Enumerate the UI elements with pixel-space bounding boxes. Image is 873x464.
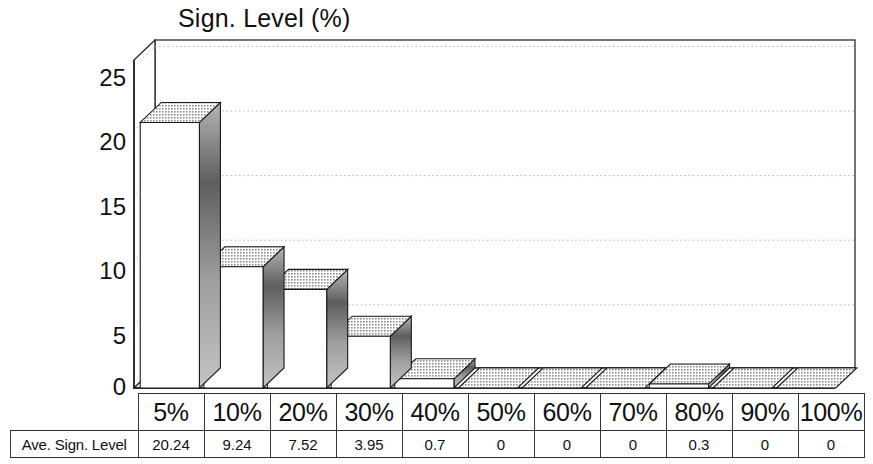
table-value-cell-10: 0	[798, 431, 864, 458]
table-row-label: Ave. Sign. Level	[11, 431, 139, 458]
y-tick-label-10: 10	[78, 257, 126, 285]
table-header-cell-9: 90%	[732, 394, 798, 431]
table-value-cell-2: 7.52	[270, 431, 336, 458]
table-header-cell-7: 70%	[600, 394, 666, 431]
table-header-cell-4: 40%	[402, 394, 468, 431]
table-value-cell-7: 0	[600, 431, 666, 458]
chart-container: Sign. Level (%) 25 20 15 10 5 0 5% 10% 2…	[0, 0, 873, 464]
table-corner-cell	[11, 394, 139, 431]
table-header-cell-10: 100%	[798, 394, 864, 431]
table-header-row: 5% 10% 20% 30% 40% 50% 60% 70% 80% 90% 1…	[11, 394, 865, 431]
table-value-row: Ave. Sign. Level 20.24 9.24 7.52 3.95 0.…	[11, 431, 865, 458]
chart-title: Sign. Level (%)	[178, 4, 351, 33]
table-value-cell-8: 0.3	[666, 431, 732, 458]
table-header-cell-8: 80%	[666, 394, 732, 431]
table-value-cell-3: 3.95	[336, 431, 402, 458]
table-header-cell-0: 5%	[138, 394, 204, 431]
table-value-cell-9: 0	[732, 431, 798, 458]
table-value-cell-4: 0.7	[402, 431, 468, 458]
table-header-cell-3: 30%	[336, 394, 402, 431]
table-header-cell-6: 60%	[534, 394, 600, 431]
table-value-cell-6: 0	[534, 431, 600, 458]
y-tick-label-5: 5	[78, 322, 126, 350]
table-value-cell-0: 20.24	[138, 431, 204, 458]
data-table: 5% 10% 20% 30% 40% 50% 60% 70% 80% 90% 1…	[10, 393, 865, 458]
y-tick-label-15: 15	[78, 193, 126, 221]
table-header-cell-2: 20%	[270, 394, 336, 431]
y-tick-label-25: 25	[78, 64, 126, 92]
y-tick-label-20: 20	[78, 128, 126, 156]
table-header-cell-5: 50%	[468, 394, 534, 431]
table-value-cell-1: 9.24	[204, 431, 270, 458]
table-header-cell-1: 10%	[204, 394, 270, 431]
bar-5pct	[140, 102, 220, 388]
table-value-cell-5: 0	[468, 431, 534, 458]
